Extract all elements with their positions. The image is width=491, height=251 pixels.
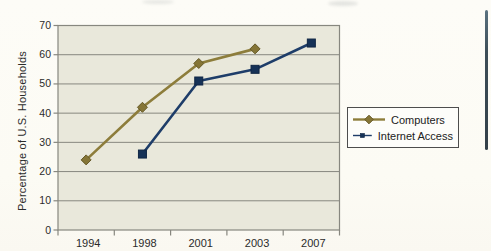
scan-smudge xyxy=(142,0,174,4)
y-axis-title: Percentage of U.S. Households xyxy=(16,51,28,211)
x-tick-label: 1998 xyxy=(132,237,156,249)
data-point-square xyxy=(307,39,315,47)
internet-access-line-swatch xyxy=(353,130,372,141)
x-tick-label: 1994 xyxy=(76,237,100,249)
y-tick-label: 70 xyxy=(39,19,51,31)
y-tick-label: 30 xyxy=(39,136,51,148)
data-point-square xyxy=(251,65,259,73)
legend-label-internet-access: Internet Access xyxy=(378,130,453,142)
x-tick-label: 2003 xyxy=(245,237,269,249)
legend-label-computers: Computers xyxy=(391,114,445,126)
scan-smudge xyxy=(328,1,358,6)
y-tick-label: 10 xyxy=(39,194,51,206)
data-point-square xyxy=(138,150,146,158)
x-tick-label: 2001 xyxy=(189,237,213,249)
data-point-square xyxy=(195,77,203,85)
y-tick-label: 0 xyxy=(45,224,51,236)
y-tick-label: 50 xyxy=(39,77,51,89)
legend-item-internet-access: Internet Access xyxy=(353,130,453,142)
y-tick-label: 60 xyxy=(39,48,51,60)
figure: 01020304050607019941998200120032007 Perc… xyxy=(0,0,491,251)
x-tick-label: 2007 xyxy=(301,237,325,249)
y-tick-label: 40 xyxy=(39,107,51,119)
legend: Computers Internet Access xyxy=(347,107,459,148)
page-edge-rule xyxy=(485,10,488,150)
plot-area xyxy=(58,26,340,231)
y-tick-label: 20 xyxy=(39,165,51,177)
legend-item-computers: Computers xyxy=(353,114,453,126)
computers-line-swatch xyxy=(353,114,385,125)
